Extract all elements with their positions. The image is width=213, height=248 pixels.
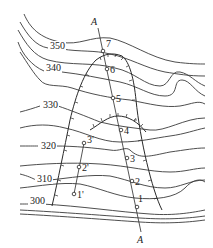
label-2: 2 (135, 176, 140, 187)
label-3: 3 (130, 153, 135, 164)
label-a-top: A (90, 16, 98, 27)
profile-line-a-a (74, 28, 141, 232)
elevation-320: 320 (41, 140, 56, 151)
elevation-350: 350 (50, 40, 65, 51)
point-6 (105, 67, 109, 71)
elevation-300: 300 (30, 195, 45, 206)
label-a-bottom: A (136, 234, 144, 245)
elevation-340: 340 (46, 62, 61, 73)
point-2-prime (77, 165, 81, 169)
label-2-prime: 2' (82, 162, 89, 173)
point-7 (101, 49, 105, 53)
label-5: 5 (116, 93, 121, 104)
point-1-prime (72, 192, 76, 196)
contour-lines (18, 14, 205, 223)
point-3-prime (82, 141, 86, 145)
elevation-330: 330 (43, 99, 58, 110)
point-4 (119, 128, 123, 132)
label-1-prime: 1' (77, 189, 84, 200)
label-7: 7 (106, 38, 111, 49)
label-6: 6 (110, 64, 115, 75)
point-1 (135, 205, 139, 209)
point-5 (111, 96, 115, 100)
label-1: 1 (138, 193, 143, 204)
landslide-boundary (52, 54, 162, 210)
label-4: 4 (124, 125, 129, 136)
label-3-prime: 3' (87, 134, 94, 145)
point-3 (125, 156, 129, 160)
point-2 (130, 179, 134, 183)
elevation-310: 310 (37, 173, 52, 184)
contour-map: 7 6 5 4 3 2 1 3' 2' 1' A A 350 340 330 3… (0, 0, 213, 248)
